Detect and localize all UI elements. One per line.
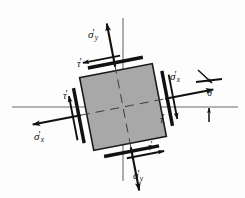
subscript-glyph: x	[177, 75, 180, 84]
subscript-glyph: y	[140, 174, 143, 183]
sigma-y-prime-label-bottom: σ′y	[133, 169, 143, 182]
prime-glyph: ′	[80, 56, 82, 67]
prime-glyph: ′	[151, 139, 153, 150]
tau-prime-label-bottom: τ′	[148, 140, 153, 152]
sigma-x-prime-label-right: σ′x	[170, 70, 180, 83]
subscript-glyph: y	[95, 33, 98, 42]
prime-glyph: ′	[163, 112, 165, 123]
prime-glyph: ′	[66, 88, 68, 99]
sigma-y-prime-label-top: σ′y	[88, 28, 98, 41]
theta-label: θ	[207, 88, 212, 99]
stress-element-square	[80, 64, 167, 151]
sigma-x-prime-label-left: σ′x	[34, 130, 44, 143]
tau-prime-label-top: τ′	[77, 57, 82, 69]
stress-element-diagram-canvas	[0, 0, 245, 198]
subscript-glyph: x	[41, 135, 44, 144]
stress-element-figure: σ′y σ′y σ′x σ′x τ′ τ′ τ′ τ′ θ	[0, 0, 245, 198]
tau-prime-label-left: τ′	[63, 89, 68, 101]
sigma-y-prime-arrow-top	[107, 24, 115, 67]
tau-prime-label-right: τ′	[160, 113, 165, 125]
